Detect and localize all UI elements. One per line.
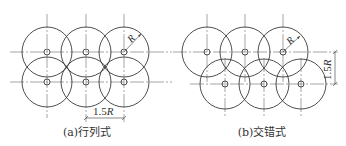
diagram-b-staggered-layout: R 1.5R (b)交错式 — [173, 14, 338, 139]
caption-b: (b)交错式 — [238, 125, 287, 139]
spacing-label: 1.5R — [321, 59, 333, 80]
caption-a: (a)行列式 — [63, 125, 111, 139]
diagram-canvas: R 1.5R (a)行列式 R — [0, 0, 346, 146]
radius-label: R — [283, 34, 296, 47]
spacing-label: 1.5R — [93, 105, 114, 117]
diagram-a-grid-layout: R 1.5R (a)行列式 — [10, 14, 172, 139]
radius-label: R — [124, 32, 137, 45]
